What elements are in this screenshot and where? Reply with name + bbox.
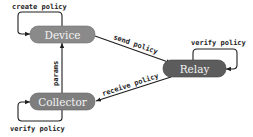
edge-relay-to-collector: receive policy — [96, 72, 171, 101]
edge-label-params: params — [52, 61, 60, 86]
edge-device-to-relay: send policy — [95, 33, 171, 63]
node-collector-label: Collector — [38, 96, 88, 108]
policy-flow-diagram: create policy send policy verify policy … — [0, 0, 253, 137]
node-device-label: Device — [44, 29, 80, 41]
node-relay: Relay — [163, 60, 226, 77]
edge-label-collector-verify-policy: verify policy — [10, 125, 66, 133]
edge-collector-to-device: params — [52, 43, 62, 93]
node-relay-label: Relay — [180, 63, 210, 75]
edge-label-receive-policy: receive policy — [101, 72, 160, 98]
node-device: Device — [30, 26, 95, 43]
node-collector: Collector — [30, 93, 95, 110]
edge-label-relay-verify-policy: verify policy — [191, 39, 247, 47]
edge-label-create-policy: create policy — [12, 3, 68, 11]
